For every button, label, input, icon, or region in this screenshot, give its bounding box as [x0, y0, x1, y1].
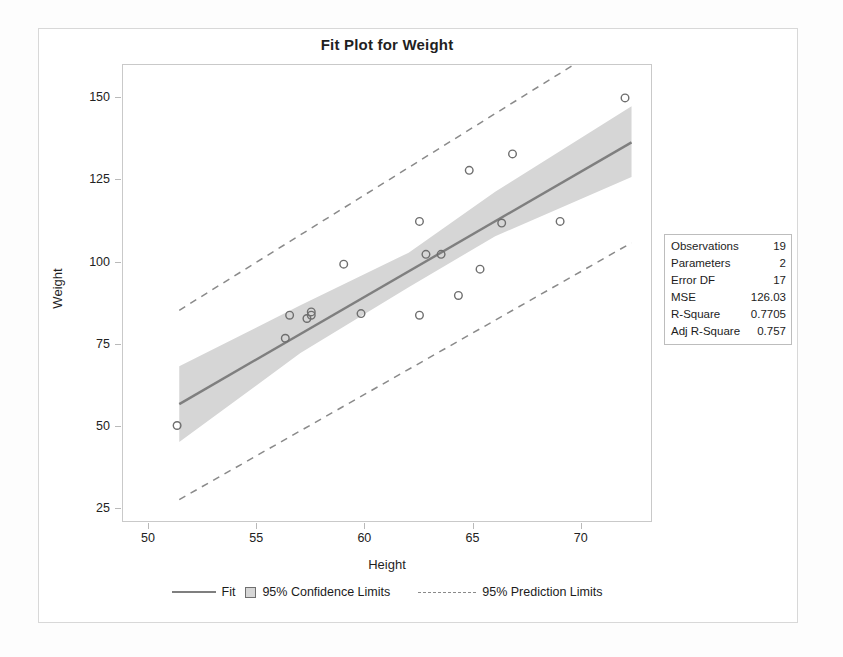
- y-axis-tick-label: 125: [66, 172, 110, 186]
- fit-plot-svg: [123, 65, 651, 521]
- legend-label-confidence: 95% Confidence Limits: [262, 585, 390, 599]
- statistics-value: 0.7705: [751, 306, 786, 323]
- x-axis-tickmark: [256, 523, 257, 529]
- legend-item-fit[interactable]: Fit: [172, 585, 236, 599]
- statistics-value: 126.03: [751, 289, 786, 306]
- screenshot-canvas: Fit Plot for Weight 5055606570 150125100…: [0, 0, 843, 657]
- statistics-label: Error DF: [671, 272, 723, 289]
- y-axis-tickmark: [115, 179, 121, 180]
- y-axis-tick-label: 50: [66, 419, 110, 433]
- statistics-box: Observations19Parameters2Error DF17MSE12…: [664, 234, 792, 345]
- statistics-value: 2: [780, 255, 786, 272]
- data-point-marker: [556, 218, 564, 226]
- statistics-row: MSE126.03: [671, 289, 786, 306]
- regression-fit-line: [179, 142, 631, 404]
- data-point-marker: [465, 167, 473, 175]
- fit-line-group: [179, 142, 631, 404]
- y-axis-tickmark: [115, 426, 121, 427]
- x-axis-label: Height: [122, 557, 652, 572]
- x-axis-tick-label: 55: [249, 531, 263, 545]
- legend-label-prediction: 95% Prediction Limits: [482, 585, 602, 599]
- statistics-value: 17: [773, 272, 786, 289]
- fit-line-swatch-icon: [172, 591, 216, 593]
- statistics-value: 0.757: [757, 323, 786, 340]
- statistics-row: R-Square0.7705: [671, 306, 786, 323]
- legend-item-confidence[interactable]: 95% Confidence Limits: [245, 585, 390, 599]
- x-axis-tick-label: 60: [357, 531, 371, 545]
- statistics-label: Parameters: [671, 255, 738, 272]
- data-point-marker: [621, 94, 629, 102]
- statistics-label: Adj R-Square: [671, 323, 748, 340]
- data-point-marker: [340, 260, 348, 268]
- x-axis-tick-label: 50: [141, 531, 155, 545]
- y-axis-tickmark: [115, 508, 121, 509]
- y-axis-tick-label: 150: [66, 90, 110, 104]
- x-axis-tick-label: 70: [574, 531, 588, 545]
- y-axis-tick-label: 25: [66, 501, 110, 515]
- statistics-value: 19: [773, 238, 786, 255]
- x-axis-tickmark: [581, 523, 582, 529]
- data-point-marker: [455, 292, 463, 300]
- chart-legend: Fit 95% Confidence Limits 95% Prediction…: [122, 585, 652, 599]
- x-axis-tickmark: [473, 523, 474, 529]
- y-axis-tick-label: 100: [66, 255, 110, 269]
- statistics-label: R-Square: [671, 306, 728, 323]
- statistics-label: MSE: [671, 289, 704, 306]
- x-axis-tick-label: 65: [466, 531, 480, 545]
- statistics-row: Parameters2: [671, 255, 786, 272]
- data-point-marker: [509, 150, 517, 158]
- y-axis-tickmark: [115, 262, 121, 263]
- y-axis-tickmark: [115, 344, 121, 345]
- statistics-row: Adj R-Square0.757: [671, 323, 786, 340]
- x-axis-tickmark: [148, 523, 149, 529]
- statistics-row: Error DF17: [671, 272, 786, 289]
- legend-item-prediction[interactable]: 95% Prediction Limits: [418, 585, 602, 599]
- page-title: Fit Plot for Weight: [122, 36, 652, 53]
- x-axis-tickmark: [364, 523, 365, 529]
- data-point-marker: [476, 265, 484, 273]
- y-axis-label: Weight: [50, 229, 65, 349]
- y-axis-tickmark: [115, 97, 121, 98]
- y-axis-tick-label: 75: [66, 337, 110, 351]
- legend-label-fit: Fit: [222, 585, 236, 599]
- plot-area: [122, 64, 652, 522]
- confidence-band-swatch-icon: [245, 587, 256, 598]
- data-point-marker: [416, 218, 424, 226]
- statistics-row: Observations19: [671, 238, 786, 255]
- prediction-limit-swatch-icon: [418, 592, 476, 593]
- data-point-marker: [416, 311, 424, 319]
- statistics-label: Observations: [671, 238, 747, 255]
